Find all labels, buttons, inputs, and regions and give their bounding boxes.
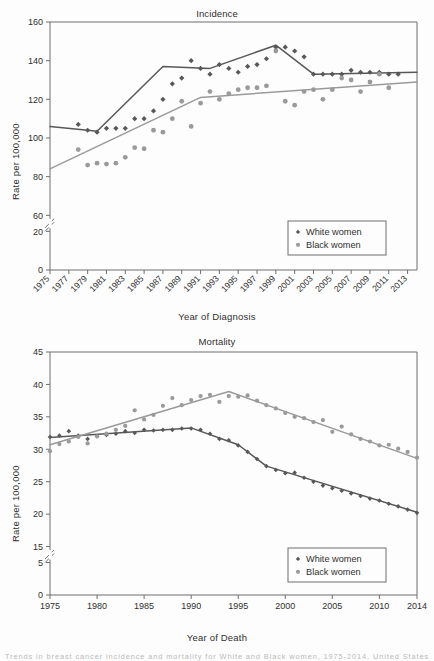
x-tick-label: 1993 [200,273,221,294]
legend: White womenBlack women [288,548,386,582]
chart-panel-mortality: Mortality Rate per 100,000 Year of Death… [0,330,434,660]
x-tick-label: 2000 [275,601,295,611]
x-tick-label: 2005 [313,273,334,294]
y-tick-label: 25 [33,477,43,487]
x-tick-label: 1983 [106,273,127,294]
x-tick-label: 2005 [322,601,342,611]
x-tick-label: 2007 [332,273,353,294]
x-tick-label: 1977 [50,273,71,294]
x-tick-label: 1975 [31,273,52,294]
x-tick-label: 1979 [68,273,89,294]
x-tick-label: 2003 [294,273,315,294]
y-tick-label: 5 [38,558,43,568]
data-points-black-women [76,49,391,168]
y-tick-label: 30 [33,445,43,455]
x-tick-label: 1989 [163,273,184,294]
y-tick-label: 0 [38,590,43,600]
trend-line-black-women [50,82,417,169]
x-tick-label: 1981 [87,273,108,294]
plot-area-mortality: 0515202530354045197519801985199019952000… [0,330,434,660]
trend-line-white-women [50,45,417,131]
x-tick-label: 2009 [351,273,372,294]
x-tick-label: 1999 [257,273,278,294]
legend-label: White women [306,227,362,237]
y-tick-label: 45 [33,347,43,357]
x-tick-label: 2013 [388,273,409,294]
y-tick-label: 40 [33,380,43,390]
y-tick-label: 80 [33,172,43,182]
x-tick-label: 1985 [134,601,154,611]
data-points-black-women [48,393,419,460]
y-tick-label: 140 [28,56,43,66]
chart-panel-incidence: Incidence Rate per 100,000 Year of Diagn… [0,0,434,330]
legend: White womenBlack women [288,221,386,255]
y-tick-label: 0 [38,265,43,275]
x-tick-label: 1987 [144,273,165,294]
trend-line-black-women [50,392,417,459]
figure-caption: Trends in breast cancer incidence and mo… [0,652,434,661]
x-tick-label: 2010 [369,601,389,611]
x-tick-label: 1997 [238,273,259,294]
y-tick-label: 15 [33,542,43,552]
x-tick-label: 2001 [275,273,296,294]
y-tick-label: 20 [33,227,43,237]
y-tick-label: 120 [28,95,43,105]
x-tick-label: 1975 [40,601,60,611]
y-tick-label: 160 [28,17,43,27]
y-tick-label: 60 [33,211,43,221]
y-tick-label: 35 [33,412,43,422]
x-tick-label: 1980 [87,601,107,611]
trend-line-white-women [50,428,417,512]
legend-label: White women [306,554,362,564]
x-tick-label: 1985 [125,273,146,294]
x-tick-label: 1991 [181,273,202,294]
x-tick-label: 2014 [407,601,427,611]
legend-label: Black women [306,567,361,577]
legend-label: Black women [306,240,361,250]
x-tick-label: 2011 [370,273,390,293]
plot-area-incidence: 0206080100120140160197519771979198119831… [0,0,434,330]
y-tick-label: 20 [33,509,43,519]
y-tick-label: 100 [28,133,43,143]
x-tick-label: 1990 [181,601,201,611]
x-tick-label: 1995 [228,601,248,611]
x-tick-label: 1995 [219,273,240,294]
